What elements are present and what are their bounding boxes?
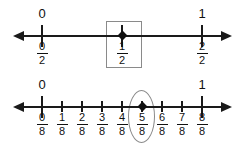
fraction-denominator: 8 [71, 126, 93, 137]
fraction-label-2-over-8: 2 8 [71, 112, 93, 137]
fraction-denominator: 2 [111, 55, 133, 66]
endpoint-label-zero: 0 [32, 7, 52, 21]
fraction-label-3-over-8: 3 8 [91, 112, 113, 137]
arrow-left-icon [13, 102, 24, 112]
arrow-right-icon [221, 102, 232, 112]
arrow-right-icon [221, 31, 232, 41]
fraction-label-4-over-8: 4 8 [111, 112, 133, 137]
fraction-label-7-over-8: 7 8 [171, 112, 193, 137]
fraction-label-6-over-8: 6 8 [151, 112, 173, 137]
fraction-label-2-over-2: 2 2 [191, 41, 213, 66]
numberline-halves: 0 1 0 2 1 2 2 2 [0, 0, 245, 71]
numberline-figure: 0 1 0 2 1 2 2 2 [0, 0, 245, 143]
fraction-numerator: 6 [151, 112, 173, 123]
fraction-denominator: 8 [171, 126, 193, 137]
fraction-denominator: 2 [191, 55, 213, 66]
fraction-numerator: 2 [71, 112, 93, 123]
fraction-numerator: 2 [191, 41, 213, 52]
fraction-numerator: 3 [91, 112, 113, 123]
fraction-label-1-over-8: 1 8 [51, 112, 73, 137]
fraction-numerator: 1 [111, 41, 133, 52]
fraction-numerator: 4 [111, 112, 133, 123]
fraction-denominator: 8 [111, 126, 133, 137]
fraction-label-5-over-8: 5 8 [131, 112, 153, 137]
fraction-numerator: 8 [191, 112, 213, 123]
fraction-label-1-over-2: 1 2 [111, 41, 133, 66]
endpoint-label-one: 1 [192, 7, 212, 21]
fraction-numerator: 0 [31, 112, 53, 123]
fraction-denominator: 8 [151, 126, 173, 137]
fraction-denominator: 8 [91, 126, 113, 137]
fraction-denominator: 8 [191, 126, 213, 137]
axis-line-eighths [24, 106, 222, 108]
fraction-denominator: 8 [51, 126, 73, 137]
endpoint-label-one: 1 [192, 78, 212, 92]
numberline-eighths: 0 1 0 8 1 8 2 8 3 8 4 8 [0, 71, 245, 143]
fraction-numerator: 0 [31, 41, 53, 52]
fraction-denominator: 8 [131, 126, 153, 137]
fraction-denominator: 2 [31, 55, 53, 66]
fraction-numerator: 1 [51, 112, 73, 123]
fraction-denominator: 8 [31, 126, 53, 137]
fraction-label-0-over-2: 0 2 [31, 41, 53, 66]
fraction-numerator: 5 [131, 112, 153, 123]
endpoint-label-zero: 0 [32, 78, 52, 92]
arrow-left-icon [13, 31, 24, 41]
fraction-label-0-over-8: 0 8 [31, 112, 53, 137]
fraction-label-8-over-8: 8 8 [191, 112, 213, 137]
fraction-numerator: 7 [171, 112, 193, 123]
